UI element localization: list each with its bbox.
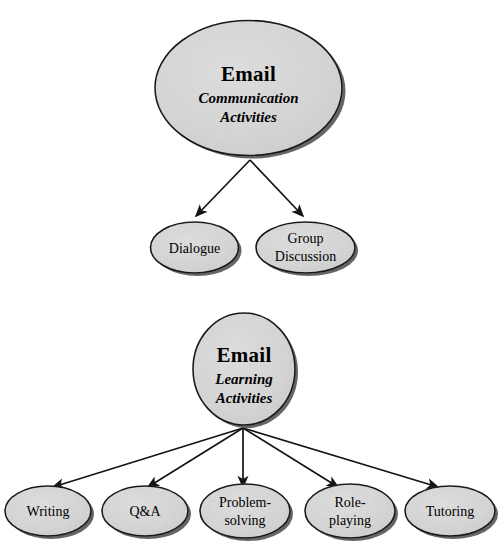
node-dialogue[interactable]: Dialogue [151,222,242,276]
node-label-line1: Problem- [219,495,271,510]
node-body [200,484,290,538]
node-body [256,222,355,273]
node-label-line1: Group [288,231,324,246]
node-writing[interactable]: Writing [5,486,94,539]
node-body [193,313,295,425]
edge-learning-to-writing [53,428,243,487]
node-title: Email [216,343,271,367]
edge-learning-to-tutoring [243,428,438,487]
diagram-svg: Email Communication Activities Dialogue … [0,0,502,546]
edge-learning-to-role-playing [243,428,338,487]
node-role-playing[interactable]: Role- playing [305,484,398,541]
node-subtitle-line2: Activities [215,390,273,406]
branch-learning: Email Learning Activities Writing Q&A Pr [5,313,498,541]
edge-communication-to-dialogue [196,160,250,216]
diagram-canvas: Email Communication Activities Dialogue … [0,0,502,546]
node-label-line2: Discussion [275,249,336,264]
node-subtitle-line1: Communication [198,90,298,106]
node-qanda[interactable]: Q&A [102,486,191,539]
edges-learning [53,428,438,487]
edge-learning-to-qanda [148,428,243,487]
node-body [155,21,342,156]
node-subtitle-line1: Learning [214,371,273,387]
edges-communication [196,160,303,216]
node-problem-solving[interactable]: Problem- solving [200,484,293,541]
node-label: Writing [27,504,70,519]
node-title: Email [221,62,276,86]
node-label-line2: solving [224,513,265,528]
node-body [305,484,395,538]
branch-communication: Email Communication Activities Dialogue … [151,21,359,277]
node-email-learning[interactable]: Email Learning Activities [193,313,298,428]
node-label: Dialogue [169,241,220,256]
node-label-line1: Role- [334,495,365,510]
node-label: Tutoring [426,504,475,519]
node-email-communication[interactable]: Email Communication Activities [155,21,346,159]
edge-communication-to-group-discussion [250,160,303,216]
node-tutoring[interactable]: Tutoring [405,486,498,539]
node-label-line2: playing [329,513,371,528]
node-label: Q&A [129,504,161,519]
node-subtitle-line2: Activities [219,109,277,125]
node-group-discussion[interactable]: Group Discussion [256,222,358,276]
